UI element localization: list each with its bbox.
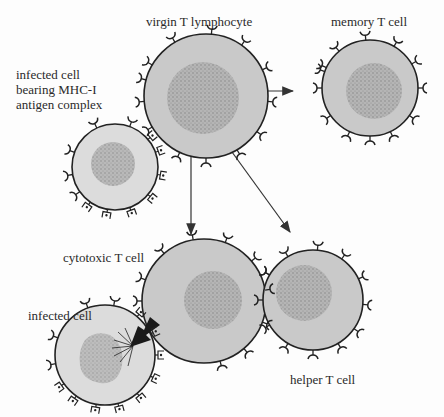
memory-t-cell xyxy=(322,40,418,136)
virgin-t-cell xyxy=(144,34,268,158)
label-infected-top-3: antigen complex xyxy=(16,97,102,112)
infected-cell-top xyxy=(72,124,158,210)
arrow-to-helper xyxy=(232,152,290,232)
diagram-svg xyxy=(0,0,444,417)
label-virgin-t-lymphocyte: virgin T lymphocyte xyxy=(146,14,252,29)
diagram-canvas: virgin T lymphocyte memory T cell infect… xyxy=(0,0,444,417)
label-infected-bottom: infected cell xyxy=(28,308,92,323)
label-cytotoxic-t-cell: cytotoxic T cell xyxy=(63,250,144,265)
label-infected-top-2: bearing MHC-I xyxy=(16,82,97,97)
label-helper-t-cell: helper T cell xyxy=(290,372,355,387)
label-memory-t-cell: memory T cell xyxy=(331,14,407,29)
helper-t-cell xyxy=(263,250,363,350)
cytotoxic-t-cell xyxy=(142,239,266,363)
label-infected-top-1: infected cell xyxy=(16,67,80,82)
